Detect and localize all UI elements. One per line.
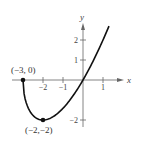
- point-marker: [21, 78, 26, 83]
- point-label: (−2,−2): [25, 125, 52, 135]
- y-axis-label: y: [79, 12, 84, 22]
- y-tick-label: 1: [74, 56, 78, 65]
- point-marker: [41, 118, 46, 123]
- x-axis-arrow-icon: [117, 78, 124, 82]
- x-tick-label: 1: [101, 83, 105, 92]
- function-graph: −2−1121−2 x y (−3, 0)(−2,−2): [0, 0, 145, 143]
- x-tick-label: −2: [39, 83, 48, 92]
- labeled-points: (−3, 0)(−2,−2): [11, 65, 52, 135]
- x-tick-label: −1: [59, 83, 68, 92]
- axes: [12, 23, 124, 127]
- y-axis-arrow-icon: [81, 23, 85, 30]
- point-label: (−3, 0): [11, 65, 36, 75]
- ticks: −2−1121−2: [39, 36, 105, 125]
- y-tick-label: −2: [69, 116, 78, 125]
- function-curve: [23, 26, 109, 120]
- y-tick-label: 2: [74, 36, 78, 45]
- x-axis-label: x: [126, 75, 131, 85]
